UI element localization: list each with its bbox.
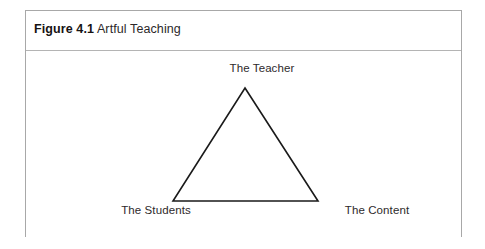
figure-caption: Figure 4.1 Artful Teaching	[34, 22, 181, 36]
node-label-content: The Content	[324, 204, 430, 216]
node-label-students: The Students	[103, 204, 209, 216]
diagram-area: The Teacher The Students The Content	[26, 51, 461, 237]
figure-caption-bar: Figure 4.1 Artful Teaching	[26, 11, 461, 51]
figure-number: Figure 4.1	[34, 22, 94, 36]
figure-title: Artful Teaching	[94, 22, 181, 36]
figure-frame: Figure 4.1 Artful Teaching The Teacher T…	[25, 10, 462, 237]
node-label-teacher: The Teacher	[209, 62, 315, 74]
triangle-outline	[173, 88, 318, 201]
